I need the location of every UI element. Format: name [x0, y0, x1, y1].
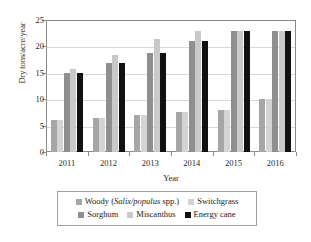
bar-miscanthus-2012	[112, 55, 118, 152]
x-tick-mark	[213, 152, 214, 156]
bar-energy-cane-2011	[77, 73, 83, 152]
bar-energy-cane-2014	[202, 41, 208, 152]
x-tick-mark	[46, 152, 47, 156]
y-tick-label: 25	[22, 16, 44, 24]
legend-entry-woody-salix-populus-spp[interactable]: Woody (Salix/populus spp.)	[76, 197, 179, 206]
bar-sorghum-2015	[231, 31, 237, 152]
legend-row-1: Woody (Salix/populus spp.)Switchgrass	[63, 195, 251, 208]
x-tick-label-2014: 2014	[171, 158, 213, 168]
chart-legend: Woody (Salix/populus spp.)SwitchgrassSor…	[57, 191, 257, 226]
bar-switchgrass-2016	[266, 99, 272, 152]
bar-sorghum-2011	[64, 73, 70, 152]
bar-group-2015	[213, 20, 255, 152]
legend-swatch-sorghum	[78, 212, 84, 218]
x-tick-mark	[129, 152, 130, 156]
bar-energy-cane-2012	[119, 63, 125, 152]
y-tick-label: 20	[22, 42, 44, 50]
bar-group-2016	[254, 20, 296, 152]
x-tick-label-2013: 2013	[129, 158, 171, 168]
y-tick-label: 15	[22, 69, 44, 77]
bar-miscanthus-2016	[279, 31, 285, 152]
bar-woody-salix-populus-spp-2016	[259, 99, 265, 152]
bar-woody-salix-populus-spp-2015	[218, 110, 224, 152]
x-tick-label-2011: 2011	[46, 158, 88, 168]
x-tick-label-2016: 2016	[254, 158, 296, 168]
bar-sorghum-2012	[106, 63, 112, 152]
legend-swatch-energy-cane	[185, 212, 191, 218]
legend-label-sorghum: Sorghum	[87, 210, 118, 219]
x-tick-label-2015: 2015	[213, 158, 255, 168]
bar-miscanthus-2015	[237, 31, 243, 152]
x-tick-label-2012: 2012	[88, 158, 130, 168]
legend-entry-sorghum[interactable]: Sorghum	[78, 210, 118, 219]
bar-group-2012	[88, 20, 130, 152]
bar-chart-figure: Dry tons/acre/year 0510152025 2011201220…	[0, 0, 311, 242]
legend-label-energy-cane: Energy cane	[194, 210, 236, 219]
bar-sorghum-2013	[147, 53, 153, 152]
bar-group-2011	[46, 20, 88, 152]
legend-label-woody-salix-populus-spp: Woody (Salix/populus spp.)	[85, 197, 179, 206]
bar-switchgrass-2015	[224, 110, 230, 152]
x-tick-mark	[88, 152, 89, 156]
x-tick-mark	[296, 152, 297, 156]
x-tick-mark	[171, 152, 172, 156]
bar-woody-salix-populus-spp-2012	[93, 118, 99, 152]
bar-groups	[46, 20, 296, 152]
x-axis-tick-labels: 201120122013201420152016	[46, 158, 296, 168]
bar-miscanthus-2014	[195, 31, 201, 152]
bar-group-2013	[129, 20, 171, 152]
legend-swatch-switchgrass	[188, 199, 194, 205]
bar-energy-cane-2013	[160, 53, 166, 152]
legend-entry-miscanthus[interactable]: Miscanthus	[127, 210, 175, 219]
bar-switchgrass-2014	[182, 112, 188, 152]
legend-label-switchgrass: Switchgrass	[197, 197, 238, 206]
bar-switchgrass-2012	[99, 118, 105, 152]
bar-woody-salix-populus-spp-2013	[134, 115, 140, 152]
legend-entry-switchgrass[interactable]: Switchgrass	[188, 197, 238, 206]
bar-sorghum-2014	[189, 41, 195, 152]
x-axis-title: Year	[46, 173, 296, 183]
y-tick-label: 10	[22, 95, 44, 103]
legend-label-miscanthus: Miscanthus	[136, 210, 175, 219]
bar-sorghum-2016	[272, 31, 278, 152]
bar-miscanthus-2011	[70, 69, 76, 152]
bar-switchgrass-2013	[141, 115, 147, 152]
x-tick-mark	[254, 152, 255, 156]
bar-miscanthus-2013	[154, 39, 160, 152]
bar-switchgrass-2011	[57, 120, 63, 152]
legend-swatch-miscanthus	[127, 212, 133, 218]
legend-row-2: SorghumMiscanthusEnergy cane	[63, 208, 251, 221]
bar-woody-salix-populus-spp-2014	[176, 112, 182, 152]
legend-entry-energy-cane[interactable]: Energy cane	[185, 210, 236, 219]
y-tick-label: 5	[22, 122, 44, 130]
y-tick-label: 0	[22, 148, 44, 156]
bar-woody-salix-populus-spp-2011	[51, 120, 57, 152]
bar-energy-cane-2015	[244, 31, 250, 152]
legend-swatch-woody-salix-populus-spp	[76, 199, 82, 205]
bar-group-2014	[171, 20, 213, 152]
bar-energy-cane-2016	[285, 31, 291, 152]
